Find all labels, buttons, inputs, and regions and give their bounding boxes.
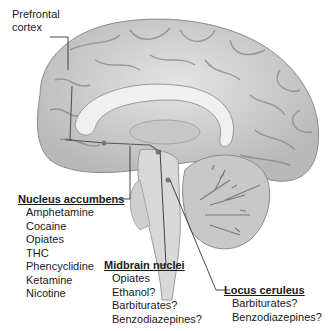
prefrontal-label: Prefrontal cortex	[12, 8, 60, 34]
na-item: Cocaine	[26, 220, 124, 234]
na-item: Opiates	[26, 233, 124, 247]
mn-item: Barbiturates?	[112, 299, 202, 313]
midbrain-nuclei-group: Midbrain nuclei Opiates Ethanol? Barbitu…	[104, 259, 202, 326]
locus-ceruleus-group: Locus ceruleus Barbiturates? Benzodiazep…	[224, 284, 322, 324]
nucleus-accumbens-title: Nucleus accumbens	[18, 193, 124, 206]
lc-item: Benzodiazepines?	[232, 311, 322, 325]
mn-item: Benzodiazepines?	[112, 313, 202, 327]
mn-item: Opiates	[112, 272, 202, 286]
cerebellum	[183, 155, 270, 249]
prefrontal-line2: cortex	[12, 21, 60, 34]
lc-item: Barbiturates?	[232, 297, 322, 311]
mn-item: Ethanol?	[112, 286, 202, 300]
na-item: Amphetamine	[26, 206, 124, 220]
prefrontal-line1: Prefrontal	[12, 8, 60, 21]
na-item: THC	[26, 247, 124, 261]
locus-ceruleus-title: Locus ceruleus	[224, 284, 322, 297]
midbrain-nuclei-title: Midbrain nuclei	[104, 259, 202, 272]
thalamus	[130, 120, 200, 144]
